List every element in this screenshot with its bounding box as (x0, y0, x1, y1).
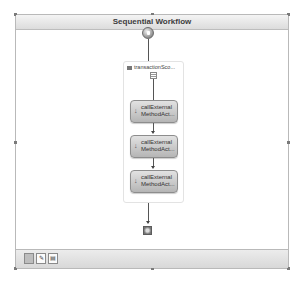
activity-icon: ↓ (134, 107, 138, 114)
activity-label: callExternal MethodAct... (141, 174, 175, 188)
workflow-view-button[interactable] (24, 253, 34, 264)
expand-collapse-icon[interactable] (150, 72, 157, 79)
arrow-down-icon (151, 131, 155, 134)
activity-label: callExternal MethodAct... (141, 104, 175, 118)
arrow-down-icon (151, 166, 155, 169)
activity-icon: ↓ (134, 177, 138, 184)
workflow-designer[interactable]: Sequential Workflow transactionSco... ↓ … (15, 14, 289, 269)
resize-handle-right[interactable] (287, 141, 290, 144)
cancel-handler-view-button[interactable]: ✎ (36, 253, 46, 264)
scope-icon (127, 66, 132, 70)
end-node-icon[interactable] (143, 226, 152, 235)
connector-line (153, 79, 154, 100)
connector-line (148, 203, 149, 223)
transaction-scope[interactable]: transactionSco... ↓ callExternal MethodA… (123, 61, 184, 203)
start-node-icon[interactable] (142, 27, 154, 39)
fault-handler-view-button[interactable]: ▤ (48, 253, 58, 264)
resize-handle-left[interactable] (14, 141, 17, 144)
scope-label: transactionSco... (134, 64, 175, 70)
view-switcher-bar: ✎ ▤ (16, 249, 288, 268)
activity-call-external-method-3[interactable]: ↓ callExternal MethodAct... (130, 170, 178, 193)
activity-call-external-method-1[interactable]: ↓ callExternal MethodAct... (130, 100, 178, 123)
scope-header: transactionSco... (127, 64, 175, 70)
activity-call-external-method-2[interactable]: ↓ callExternal MethodAct... (130, 135, 178, 158)
activity-icon: ↓ (134, 142, 138, 149)
arrow-down-icon (146, 221, 150, 224)
connector-line (148, 39, 149, 61)
activity-label: callExternal MethodAct... (141, 139, 175, 153)
